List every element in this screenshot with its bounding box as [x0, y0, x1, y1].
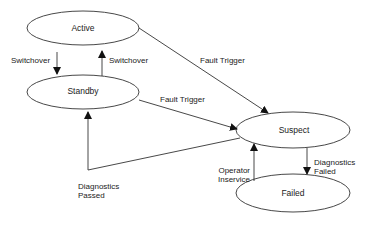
transition-label-diagnostics-failed: Diagnostics Failed — [314, 158, 355, 176]
transition-label-diagnostics-passed: Diagnostics Passed — [78, 182, 119, 200]
transition-label-switchover-down: Switchover — [11, 56, 50, 65]
transition-standby-to-suspect — [139, 100, 237, 129]
transition-label-switchover-up: Switchover — [109, 56, 148, 65]
state-suspect-label: Suspect — [279, 125, 310, 135]
state-failed-label: Failed — [281, 188, 304, 198]
state-active-label: Active — [71, 23, 94, 33]
state-diagram-canvas — [0, 0, 369, 228]
transition-suspect-to-standby — [88, 112, 240, 170]
state-standby-label: Standby — [67, 86, 98, 96]
transition-label-fault-trigger-active: Fault Trigger — [200, 56, 245, 65]
transition-label-operator-inservice: Operator Inservice — [218, 166, 250, 184]
transition-label-fault-trigger-standby: Fault Trigger — [160, 95, 205, 104]
